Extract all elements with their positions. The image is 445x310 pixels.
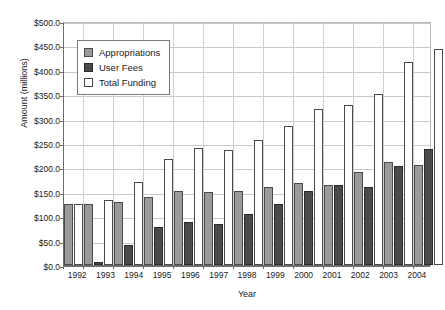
bar-appropriations [174,191,183,265]
x-tick-mark [233,265,234,269]
x-tick-label: 2000 [290,270,318,284]
bar-user-fees [274,204,283,265]
bar-group [324,23,354,265]
bar-group [384,23,414,265]
legend-label-total-funding: Total Funding [99,77,156,88]
legend-label-appropriations: Appropriations [99,47,160,58]
x-tick-label: 2001 [318,270,346,284]
bar-total-funding [134,182,143,265]
x-tick-mark [63,265,64,269]
x-tick-mark [323,265,324,269]
bar-total-funding [194,148,203,265]
bar-chart: Amount (millions) $0.0$50.0$100.0$150.0$… [0,0,445,310]
y-tick-label: $450.0 [34,42,60,52]
x-tick-label: 2004 [403,270,431,284]
x-tick-label: 1995 [148,270,176,284]
x-tick-mark [83,265,84,269]
bar-user-fees [424,149,433,265]
bar-total-funding [374,94,383,265]
x-tick-label: 2002 [346,270,374,284]
y-tick-label: $50.0 [39,238,60,248]
bar-appropriations [114,202,123,265]
bar-appropriations [144,197,153,265]
legend-item-appropriations: Appropriations [84,45,160,60]
y-tick-label: $300.0 [34,116,60,126]
gridline [64,266,430,267]
x-tick-label: 1997 [205,270,233,284]
bar-user-fees [154,227,163,265]
bar-total-funding [254,140,263,265]
x-tick-mark [113,265,114,269]
x-tick-mark [413,265,414,269]
x-tick-mark [383,265,384,269]
bar-appropriations [264,187,273,265]
x-axis-title: Year [63,289,431,299]
legend-item-total-funding: Total Funding [84,75,160,90]
x-tick-label: 1999 [261,270,289,284]
legend-swatch-appropriations [84,48,93,57]
bar-total-funding [284,126,293,265]
bar-user-fees [364,187,373,265]
x-tick-mark [293,265,294,269]
bar-group [264,23,294,265]
bar-total-funding [314,109,323,265]
y-tick-label: $200.0 [34,164,60,174]
x-tick-label: 1994 [120,270,148,284]
bar-appropriations [84,204,93,265]
y-tick-label: $0.0 [43,262,60,272]
bar-appropriations [384,162,393,265]
y-axis-title: Amount (millions) [19,33,29,153]
bar-total-funding [224,150,233,265]
y-tick-label: $350.0 [34,91,60,101]
x-tick-label: 1998 [233,270,261,284]
legend-item-user-fees: User Fees [84,60,160,75]
bar-user-fees [214,224,223,265]
x-tick-label: 1996 [176,270,204,284]
bar-user-fees [334,185,343,265]
bar-appropriations [234,191,243,265]
bar-appropriations [354,172,363,265]
legend-swatch-user-fees [84,63,93,72]
bar-total-funding [74,204,83,265]
x-tick-label: 2003 [374,270,402,284]
bar-user-fees [184,222,193,265]
bar-user-fees [244,214,253,265]
x-tick-mark [203,265,204,269]
bar-total-funding [434,49,443,265]
bar-appropriations [324,185,333,265]
x-tick-mark [173,265,174,269]
bar-group [174,23,204,265]
x-tick-label: 1993 [91,270,119,284]
bar-total-funding [104,200,113,265]
bar-total-funding [164,159,173,265]
y-tick-label: $250.0 [34,140,60,150]
bar-total-funding [344,105,353,265]
bar-user-fees [304,191,313,265]
x-axis-tick-labels: 1992199319941995199619971998199920002001… [63,270,431,284]
y-tick-label: $100.0 [34,213,60,223]
bar-group [294,23,324,265]
bar-total-funding [404,62,413,265]
y-tick-label: $500.0 [34,18,60,28]
bar-user-fees [394,166,403,265]
bar-user-fees [124,245,133,265]
bar-group [234,23,264,265]
bar-appropriations [204,192,213,265]
bar-appropriations [294,183,303,265]
legend-swatch-total-funding [84,78,93,87]
bar-appropriations [64,204,73,265]
x-tick-mark [143,265,144,269]
y-tick-label: $400.0 [34,67,60,77]
bar-user-fees [94,262,103,265]
bar-group [354,23,384,265]
legend-label-user-fees: User Fees [99,62,143,73]
legend: Appropriations User Fees Total Funding [77,40,170,95]
y-tick-label: $150.0 [34,189,60,199]
x-tick-label: 1992 [63,270,91,284]
x-tick-mark [263,265,264,269]
bar-group [204,23,234,265]
bar-group [414,23,443,265]
bar-appropriations [414,165,423,265]
x-tick-mark [353,265,354,269]
